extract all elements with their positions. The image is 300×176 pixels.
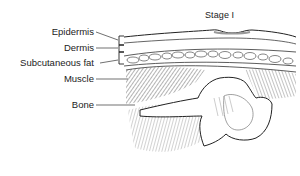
skin-cross-section-illustration — [0, 0, 300, 176]
leader-epidermis — [96, 32, 118, 40]
layer-bracket — [119, 36, 124, 64]
subcutaneous-fat-layer — [124, 49, 296, 66]
leader-subcutaneous-fat — [100, 60, 118, 63]
epidermis-layer — [124, 30, 296, 44]
